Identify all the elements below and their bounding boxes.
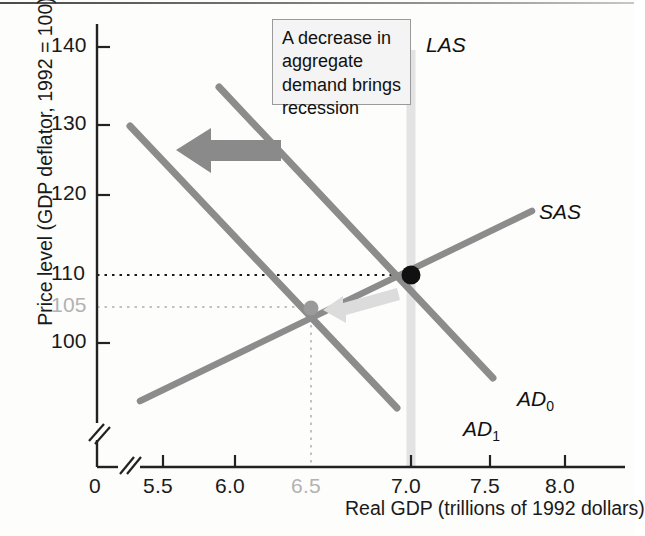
ad0-label-base: AD xyxy=(517,387,546,410)
x-axis-title: Real GDP (trillions of 1992 dollars) xyxy=(345,497,645,520)
x-tick-label-7.5: 7.5 xyxy=(470,474,500,498)
x-axis-break-icon xyxy=(120,457,141,474)
y-tick-label-100: 100 xyxy=(51,329,87,353)
new-equilibrium-point xyxy=(402,266,421,285)
old-equilibrium-point xyxy=(304,301,319,316)
las-curve-label: LAS xyxy=(426,33,466,57)
ad1-label-sub: 1 xyxy=(492,428,500,444)
recession-callout: A decrease in aggregate demand brings re… xyxy=(272,19,411,105)
x-tick-marks xyxy=(163,455,565,467)
ad1-label-base: AD xyxy=(463,417,492,440)
x-tick-label-6.5: 6.5 xyxy=(291,474,321,498)
ad0-label-sub: 0 xyxy=(546,398,554,414)
y-tick-marks xyxy=(97,47,110,343)
y-axis-break-icon xyxy=(89,424,110,444)
x-tick-label-5.5: 5.5 xyxy=(143,474,173,498)
sas-curve-label: SAS xyxy=(539,200,581,224)
y-axis-title: Price level (GDP deflator, 1992 = 100) xyxy=(34,0,57,327)
x-tick-label-7.0: 7.0 xyxy=(391,474,421,498)
x-tick-label-8.0: 8.0 xyxy=(545,474,575,498)
ad1-curve-label: AD1 xyxy=(463,417,500,444)
ad0-curve xyxy=(219,87,493,378)
x-tick-label-6.0: 6.0 xyxy=(215,474,245,498)
ad1-curve xyxy=(130,126,397,408)
ad0-curve-label: AD0 xyxy=(517,387,554,414)
x-tick-label-0: 0 xyxy=(89,474,101,498)
